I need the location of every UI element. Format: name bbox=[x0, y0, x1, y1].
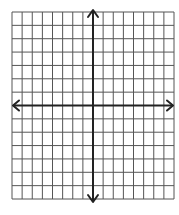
coordinate-plane bbox=[0, 0, 179, 215]
